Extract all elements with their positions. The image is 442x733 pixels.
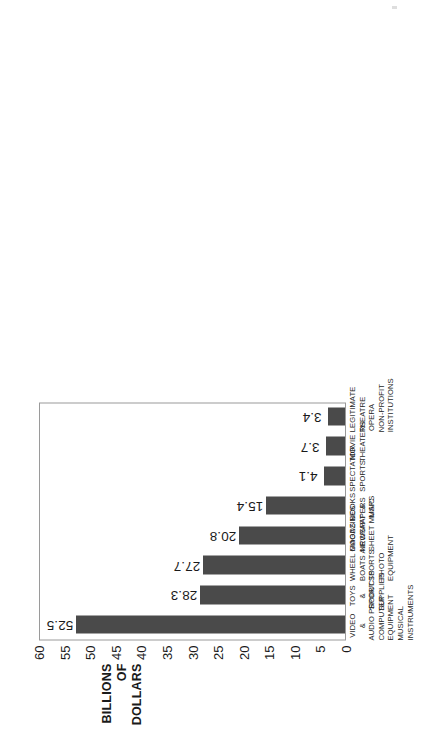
bar[interactable] bbox=[203, 555, 345, 573]
category-label-line: INSTITUTIONS bbox=[386, 402, 396, 432]
bar-group[interactable]: 27.7 bbox=[40, 555, 345, 573]
category-label-line: WHEEL GOODS bbox=[348, 551, 358, 581]
bar-value-label: 3.4 bbox=[302, 409, 321, 423]
y-tick-label: 50 bbox=[84, 645, 97, 659]
bar-group[interactable]: 28.3 bbox=[40, 585, 345, 603]
bar[interactable] bbox=[76, 615, 345, 633]
category-label-line: NON-PROFIT bbox=[377, 402, 387, 432]
y-tick-label: 30 bbox=[186, 645, 199, 659]
bar-chart: BILLIONS OF DOLLARS 60555045403530252015… bbox=[0, 0, 442, 733]
category-label-line: THEATERS bbox=[358, 432, 368, 462]
y-tick-label: 40 bbox=[135, 645, 148, 659]
bar-value-label: 15.4 bbox=[237, 498, 263, 512]
y-tick-label: 10 bbox=[288, 645, 301, 659]
category-label-line: AUDIO PRODUCTS bbox=[367, 610, 377, 640]
y-tick-label: 25 bbox=[212, 645, 225, 659]
y-axis-title: BILLIONS OF DOLLARS bbox=[100, 663, 145, 725]
y-tick-label: 5 bbox=[314, 645, 327, 652]
category-label-line: THEATRE bbox=[358, 402, 368, 432]
bar-group[interactable]: 15.4 bbox=[40, 496, 345, 514]
category-label: MAGAZINESNEWSPAPERSSHEET MUSIC bbox=[348, 521, 377, 551]
bar-value-label: 4.1 bbox=[299, 468, 318, 482]
category-label-line: VIDEO bbox=[348, 610, 358, 640]
category-label-line: SUPPLIES bbox=[377, 581, 387, 611]
bar[interactable] bbox=[239, 526, 345, 544]
y-tick-label: 15 bbox=[263, 645, 276, 659]
rotated-page-stage: BILLIONS OF DOLLARS 60555045403530252015… bbox=[0, 0, 442, 733]
category-label-line: EQUIPMENT bbox=[386, 610, 396, 640]
bar[interactable] bbox=[328, 407, 345, 425]
y-axis-title-line-1: BILLIONS bbox=[100, 663, 115, 725]
category-label-line: INSTRUMENTS bbox=[406, 610, 416, 640]
category-label-line: OPERA bbox=[367, 402, 377, 432]
bar-group[interactable]: 3.4 bbox=[40, 407, 345, 425]
category-label-line: SPORTS bbox=[367, 551, 377, 581]
category-label: MOVIETHEATERS bbox=[348, 432, 367, 462]
category-label-line: BOATS AIRCRAFT bbox=[358, 551, 368, 581]
y-tick-label: 55 bbox=[58, 645, 71, 659]
y-tick-label: 35 bbox=[160, 645, 173, 659]
y-tick-label: 20 bbox=[237, 645, 250, 659]
category-label-line: LEGITIMATE bbox=[348, 402, 358, 432]
category-label-line: SHEET MUSIC bbox=[367, 521, 377, 551]
y-axis-tick-labels: 605550454035302520151050 bbox=[39, 643, 346, 671]
plot-frame: 52.528.327.720.815.44.13.73.4 bbox=[39, 402, 346, 640]
y-axis-title-line-3: DOLLARS bbox=[130, 663, 145, 725]
category-label: TOYS&SPORTSUPPLIES bbox=[348, 581, 386, 611]
category-label-line: BOOKS bbox=[348, 491, 358, 521]
category-label-line: MOVIE bbox=[348, 432, 358, 462]
category-label-line: MAPS bbox=[367, 491, 377, 521]
bar[interactable] bbox=[326, 436, 345, 454]
bar-value-label: 3.7 bbox=[301, 439, 320, 453]
bar-value-label: 52.5 bbox=[47, 617, 73, 631]
y-tick-label: 0 bbox=[340, 645, 353, 652]
bar-group[interactable]: 52.5 bbox=[40, 615, 345, 633]
category-label: WHEEL GOODSBOATS AIRCRAFTSPORTSPHOTOEQUI… bbox=[348, 551, 396, 581]
bar[interactable] bbox=[266, 496, 345, 514]
category-label-line: TOYS bbox=[348, 581, 358, 611]
bar-group[interactable]: 3.7 bbox=[40, 436, 345, 454]
scan-artifact-speck bbox=[392, 6, 397, 9]
y-tick-label: 45 bbox=[109, 645, 122, 659]
bar-group[interactable]: 20.8 bbox=[40, 526, 345, 544]
category-label-line: PHOTO bbox=[377, 551, 387, 581]
bar[interactable] bbox=[200, 585, 345, 603]
category-label-line: SPECTATOR bbox=[348, 462, 358, 492]
bar-value-label: 28.3 bbox=[171, 587, 197, 601]
bar-value-label: 27.7 bbox=[174, 558, 200, 572]
category-label-line: MAGAZINES bbox=[348, 521, 358, 551]
category-label: SPECTATORSPORTS bbox=[348, 462, 367, 492]
category-label-line: EQUIPMENT bbox=[386, 551, 396, 581]
category-label-line: & bbox=[358, 610, 368, 640]
bar-value-label: 20.8 bbox=[209, 528, 235, 542]
category-label: VIDEO&AUDIO PRODUCTSCOMPUTEREQUIPMENTMUS… bbox=[348, 610, 415, 640]
category-label-line: COMPUTER bbox=[377, 610, 387, 640]
x-axis-category-labels: VIDEO&AUDIO PRODUCTSCOMPUTEREQUIPMENTMUS… bbox=[348, 402, 440, 640]
category-label-line: MUSICAL bbox=[396, 610, 406, 640]
bar-group[interactable]: 4.1 bbox=[40, 466, 345, 484]
bar[interactable] bbox=[324, 466, 345, 484]
category-label-line: & bbox=[358, 491, 368, 521]
category-label-line: SPORT bbox=[367, 581, 377, 611]
category-label: BOOKS&MAPS bbox=[348, 491, 377, 521]
y-tick-label: 60 bbox=[33, 645, 46, 659]
category-label-line: & bbox=[358, 581, 368, 611]
plot-canvas: 52.528.327.720.815.44.13.73.4 bbox=[40, 403, 345, 639]
category-label: LEGITIMATETHEATREOPERANON-PROFITINSTITUT… bbox=[348, 402, 396, 432]
category-label-line: NEWSPAPERS bbox=[358, 521, 368, 551]
y-axis-title-line-2: OF bbox=[115, 663, 130, 725]
category-label-line: SPORTS bbox=[358, 462, 368, 492]
